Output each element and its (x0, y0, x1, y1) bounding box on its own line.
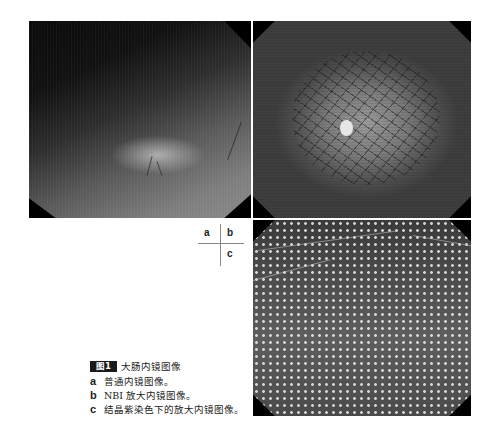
endoscopy-image-c (253, 220, 471, 416)
divider (198, 243, 244, 244)
endoscopy-image-a (29, 21, 251, 218)
caption-item: a普通内镜图像。 (90, 374, 244, 388)
caption-item: bNBI 放大内镜图像。 (90, 388, 244, 402)
key-label-c: c (227, 248, 233, 259)
figure-number-badge: 图1 (90, 361, 117, 372)
key-label-b: b (227, 227, 233, 238)
panel-layout-key: a b c (198, 224, 244, 266)
caption-item: c结晶紫染色下的放大内镜图像。 (90, 402, 244, 416)
key-label-a: a (204, 227, 210, 238)
figure-caption: 图1大肠内镜图像 a普通内镜图像。 bNBI 放大内镜图像。 c结晶紫染色下的放… (90, 360, 244, 416)
endoscopy-image-b (253, 21, 471, 218)
light-reflection-spot (340, 120, 353, 136)
caption-title: 大肠内镜图像 (121, 361, 181, 372)
divider (220, 224, 221, 266)
